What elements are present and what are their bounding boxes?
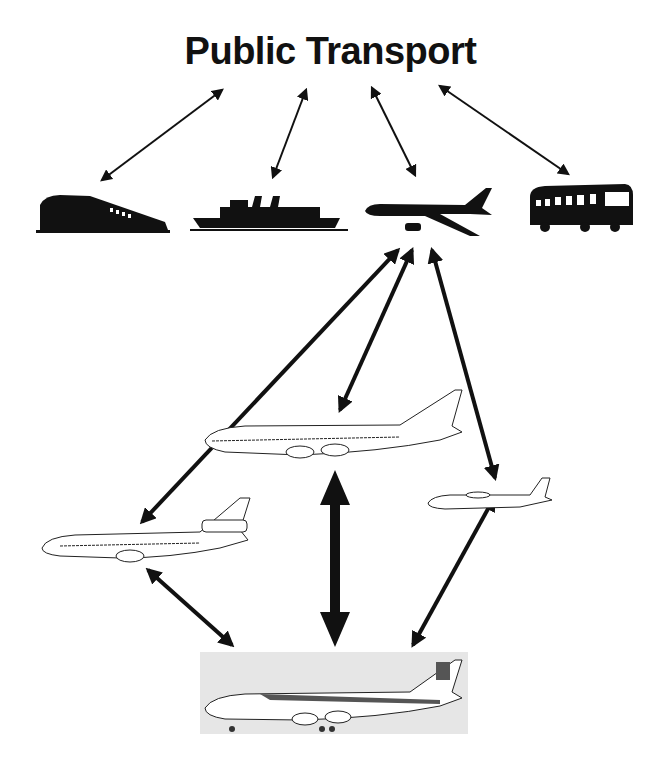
trijet-icon <box>42 498 250 562</box>
jumbo-jet-icon <box>205 390 462 458</box>
arrow-turboprop-iberia <box>413 498 494 645</box>
iberia-747-photo <box>200 652 468 734</box>
ship-icon <box>190 196 348 231</box>
turboprop-icon <box>428 478 552 509</box>
arrow-trijet-iberia <box>148 570 232 645</box>
arrow-airplane-trijet <box>142 250 398 522</box>
arrow-title-ship <box>273 90 306 177</box>
airplane-icon <box>365 188 492 236</box>
train-icon <box>36 195 170 233</box>
arrow-jumbo-iberia <box>320 470 350 647</box>
diagram-canvas <box>0 0 661 773</box>
arrow-title-airplane <box>372 88 415 175</box>
arrow-title-bus <box>440 86 568 174</box>
bus-icon <box>530 184 633 232</box>
iberia-logo <box>436 662 450 680</box>
title-arrows <box>102 86 568 180</box>
arrow-title-train <box>102 90 222 180</box>
arrow-airplane-turboprop <box>432 250 495 478</box>
